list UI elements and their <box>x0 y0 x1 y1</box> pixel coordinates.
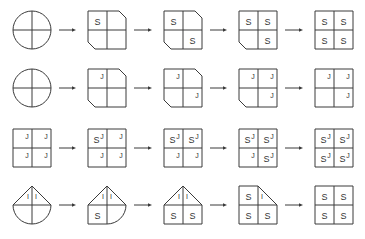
label-j: J <box>176 73 180 80</box>
fold-step: SSSS <box>315 11 353 49</box>
label-s: S <box>340 36 346 46</box>
quadrant-outline-bl-cut <box>239 88 258 107</box>
fold-step: IISS <box>164 186 202 224</box>
quadrant-outline-br-square <box>32 148 51 167</box>
fold-step: SJSJJJ <box>164 129 202 167</box>
quadrant-outline-tl-triangle <box>13 186 32 205</box>
label-s: S <box>188 135 194 145</box>
label-s: S <box>189 211 195 221</box>
label-s: S <box>321 192 327 202</box>
arrowhead <box>223 86 227 90</box>
arrowhead <box>148 203 152 207</box>
label-j: J <box>251 152 255 159</box>
fold-step: II <box>13 186 51 224</box>
arrowhead <box>148 86 152 90</box>
quadrant-outline-br-round <box>32 205 51 224</box>
label-j: J <box>346 152 350 159</box>
quadrant-outline-br-square <box>258 88 277 107</box>
quadrant-outline-br-square <box>183 88 202 107</box>
arrowhead <box>223 28 227 32</box>
quadrant-outline-bl-round <box>13 88 32 107</box>
label-s: S <box>339 135 345 145</box>
label-j: J <box>346 92 350 99</box>
fold-step: SSSS <box>315 186 353 224</box>
quadrant-outline-bl-cut <box>88 88 107 107</box>
label-j: J <box>251 133 255 140</box>
label-i: I <box>186 193 188 200</box>
label-j: J <box>346 133 350 140</box>
label-s: S <box>170 211 176 221</box>
label-s: S <box>264 17 270 27</box>
quadrant-outline-br-square <box>107 88 126 107</box>
arrow-right-icon <box>285 86 303 90</box>
arrowhead <box>148 28 152 32</box>
quadrant-outline-tl-triangle <box>88 186 107 205</box>
arrow-right-icon <box>59 86 76 90</box>
fold-step: IIS <box>88 186 126 224</box>
label-j: J <box>251 73 255 80</box>
arrowhead <box>72 203 76 207</box>
label-s: S <box>245 192 251 202</box>
quadrant-outline-br-round <box>32 30 51 49</box>
quadrant-outline-tr-square <box>107 129 126 148</box>
quadrant-outline-bl-square <box>88 148 107 167</box>
quadrant-outline-tr-square <box>258 69 277 88</box>
label-j: J <box>44 152 48 159</box>
arrow-right-icon <box>59 203 76 207</box>
quadrant-outline-tr-cut <box>107 69 126 88</box>
label-j: J <box>327 133 331 140</box>
label-s: S <box>94 211 100 221</box>
sequence-row: IIIISIISSSISSSSSS <box>13 186 353 224</box>
quadrant-outline-tl-square <box>239 69 258 88</box>
quadrant-outline-tl-square <box>88 69 107 88</box>
arrow-right-icon <box>210 146 227 150</box>
folding-sequence-diagram: SSSSSSSSSSJJJJJJJJJJJJJSJJJJSJSJJJSJSJJS… <box>0 0 365 239</box>
quadrant-outline-br-round <box>107 205 126 224</box>
quadrant-outline-br-square <box>183 148 202 167</box>
label-j: J <box>25 133 29 140</box>
arrow-right-icon <box>59 28 76 32</box>
label-j: J <box>270 152 274 159</box>
quadrant-outline-bl-square <box>164 148 183 167</box>
quadrant-outline-tl-round <box>13 69 32 88</box>
label-s: S <box>340 192 346 202</box>
sequence-row: SSSSSSSSSS <box>13 11 353 49</box>
quadrant-outline-br-round <box>32 88 51 107</box>
label-j: J <box>100 152 104 159</box>
label-j: J <box>327 73 331 80</box>
arrowhead <box>72 146 76 150</box>
label-s: S <box>321 17 327 27</box>
fold-step: SSS <box>239 11 277 49</box>
label-s: S <box>244 135 250 145</box>
label-j: J <box>195 152 199 159</box>
label-s: S <box>320 135 326 145</box>
quadrant-outline-tr-cut <box>183 11 202 30</box>
label-j: J <box>270 92 274 99</box>
fold-step: JJ <box>164 69 202 107</box>
arrowhead <box>72 28 76 32</box>
label-j: J <box>25 152 29 159</box>
quadrant-outline-bl-cut <box>88 30 107 49</box>
fold-step: S <box>88 11 126 49</box>
quadrant-outline-bl-round <box>13 30 32 49</box>
fold-step <box>13 11 51 49</box>
label-j: J <box>270 73 274 80</box>
label-s: S <box>245 211 251 221</box>
quadrant-outline-tl-square <box>164 69 183 88</box>
quadrant-outline-bl-cut <box>239 30 258 49</box>
label-j: J <box>195 133 199 140</box>
label-j: J <box>176 152 180 159</box>
arrow-right-icon <box>285 146 303 150</box>
quadrant-outline-bl-square <box>13 148 32 167</box>
quadrant-outline-br-square <box>107 30 126 49</box>
fold-step: JJJ <box>239 69 277 107</box>
label-s: S <box>264 211 270 221</box>
quadrant-outline-bl-round <box>13 205 32 224</box>
arrow-right-icon <box>210 86 227 90</box>
quadrant-outline-tr-square <box>32 129 51 148</box>
label-j: J <box>44 133 48 140</box>
sequence-row: JJJJJJJJJ <box>13 69 353 107</box>
quadrant-outline-bl-cut <box>164 88 183 107</box>
arrow-right-icon <box>134 86 152 90</box>
arrowhead <box>223 146 227 150</box>
